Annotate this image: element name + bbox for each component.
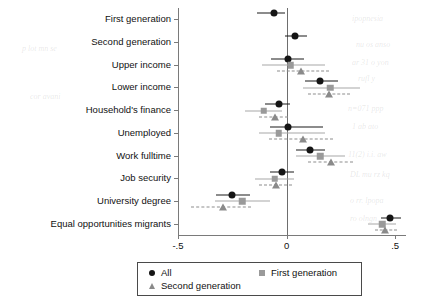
scan-artifact-text: cor avani: [30, 92, 60, 101]
data-point-marker: [297, 68, 305, 75]
legend-item-label: First generation: [271, 267, 337, 278]
y-axis-label-unemployed: Unemployed: [118, 128, 171, 138]
data-point-marker: [276, 130, 283, 137]
legend-square-marker-icon: [256, 268, 268, 278]
data-point-marker: [284, 123, 291, 130]
y-axis-label-job-security: Job security: [120, 173, 171, 183]
legend-item-label: All: [161, 267, 172, 278]
x-axis-tick: [178, 235, 179, 239]
legend-item-all[interactable]: All: [146, 267, 172, 278]
data-point-marker: [307, 146, 314, 153]
triangle-icon: [149, 283, 155, 289]
y-axis-label-lower-income: Lower income: [112, 82, 171, 92]
y-axis-label-equal-opportunities-migrants: Equal opportunities migrants: [51, 219, 171, 229]
x-axis-tick-label: -.5: [172, 241, 183, 251]
data-point-marker: [381, 227, 389, 234]
y-axis-label-upper-income: Upper income: [112, 60, 171, 70]
x-axis-tick: [395, 235, 396, 239]
data-point-marker: [299, 136, 307, 143]
legend-item-label: Second generation: [161, 280, 241, 291]
legend-circle-marker-icon: [146, 268, 158, 278]
y-axis-tick: [174, 65, 178, 66]
legend-triangle-marker-icon: [146, 281, 158, 291]
data-point-marker: [272, 181, 280, 188]
zero-reference-line: [287, 8, 288, 235]
data-point-marker: [317, 153, 324, 160]
x-axis-tick: [287, 235, 288, 239]
data-point-marker: [292, 33, 299, 40]
y-axis-label-work-fulltime: Work fulltime: [116, 151, 171, 161]
data-point-marker: [327, 159, 335, 166]
data-point-marker: [270, 10, 277, 17]
legend-item-second-generation[interactable]: Second generation: [146, 280, 241, 291]
y-axis-tick: [174, 42, 178, 43]
scan-artifact-text: p lot mn se: [22, 44, 57, 53]
y-axis-tick: [174, 178, 178, 179]
y-axis-label-first-generation: First generation: [105, 14, 171, 24]
coefficient-plot-figure: ipopnesianu os ansoar 31 o yonrufl y n=0…: [0, 0, 446, 308]
square-icon: [259, 270, 265, 276]
data-point-marker: [271, 113, 279, 120]
data-point-marker: [317, 78, 324, 85]
chart-legend: AllFirst generationSecond generation: [137, 262, 362, 296]
y-axis-tick: [174, 156, 178, 157]
y-axis-tick: [174, 133, 178, 134]
data-point-marker: [279, 169, 286, 176]
y-axis-label-second-generation: Second generation: [91, 37, 171, 47]
confidence-interval-bar: [270, 126, 323, 127]
plot-area: [178, 8, 406, 235]
y-axis-tick: [174, 19, 178, 20]
y-axis-tick: [174, 224, 178, 225]
x-axis-tick-label: 0: [284, 241, 289, 251]
data-point-marker: [275, 101, 282, 108]
data-point-marker: [261, 107, 268, 114]
y-axis-line: [178, 8, 179, 235]
confidence-interval-bar: [259, 133, 324, 134]
data-point-marker: [239, 198, 246, 205]
x-axis-tick-label: .5: [391, 241, 399, 251]
data-point-marker: [288, 62, 295, 69]
y-axis-label-university-degree: University degree: [97, 196, 171, 206]
data-point-marker: [325, 90, 333, 97]
data-point-marker: [229, 191, 236, 198]
data-point-marker: [219, 204, 227, 211]
legend-item-first-generation[interactable]: First generation: [256, 267, 337, 278]
data-point-marker: [386, 214, 393, 221]
y-axis-tick: [174, 110, 178, 111]
x-axis-line: [178, 235, 406, 236]
circle-icon: [149, 270, 155, 276]
y-axis-tick: [174, 87, 178, 88]
y-axis-tick: [174, 201, 178, 202]
y-axis-label-household-s-finance: Household's finance: [86, 105, 171, 115]
